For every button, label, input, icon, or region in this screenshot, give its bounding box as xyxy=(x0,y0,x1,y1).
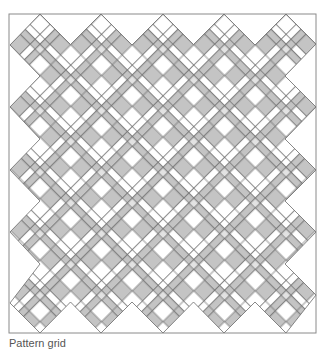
figure-caption: Pattern grid xyxy=(9,337,66,349)
